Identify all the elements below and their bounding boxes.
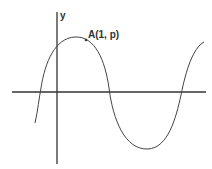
point-a-marker <box>85 39 88 42</box>
point-a-label: A(1, p) <box>88 29 119 40</box>
y-axis-label: y <box>60 10 66 21</box>
sine-graph: y A(1, p) <box>0 0 212 169</box>
sine-curve <box>35 37 204 149</box>
